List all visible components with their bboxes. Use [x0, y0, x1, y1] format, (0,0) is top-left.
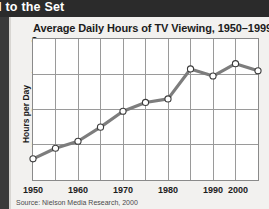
- left-decorative-spine: [0, 17, 9, 209]
- x-tick-label: 1970: [103, 185, 143, 195]
- article-headline: d to the Set: [0, 0, 64, 15]
- figure-screenshot: d to the Set Average Daily Hours of TV V…: [0, 0, 269, 209]
- data-point: [165, 96, 171, 102]
- data-point: [210, 73, 216, 79]
- data-point: [52, 145, 58, 151]
- data-point: [97, 124, 103, 130]
- series-line: [33, 64, 258, 159]
- data-point: [75, 138, 81, 144]
- x-tick-label: 2000: [218, 185, 258, 195]
- source-note: Source: Nielson Media Research, 2000: [16, 199, 138, 206]
- x-tick-label: 1960: [58, 185, 98, 195]
- data-point: [232, 61, 238, 67]
- chart-title: Average Daily Hours of TV Viewing, 1950–…: [33, 22, 269, 34]
- plot-area: [32, 38, 259, 181]
- data-point: [142, 99, 148, 105]
- data-point: [120, 108, 126, 114]
- data-series-svg: [33, 39, 258, 180]
- chart-figure: Average Daily Hours of TV Viewing, 1950–…: [11, 17, 269, 209]
- data-point: [187, 66, 193, 72]
- x-tick-label: 1980: [148, 185, 188, 195]
- data-point: [30, 156, 36, 162]
- x-tick-label: 1950: [13, 185, 53, 195]
- data-point: [255, 68, 261, 74]
- article-header-band: d to the Set: [0, 0, 269, 17]
